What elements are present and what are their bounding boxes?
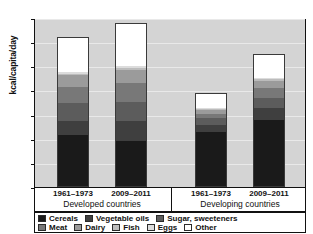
legend-item[interactable]: Fish <box>112 223 139 232</box>
bar[interactable] <box>253 54 285 187</box>
legend-swatch-icon <box>74 224 82 231</box>
bar-segment[interactable] <box>58 75 88 87</box>
bar-segment[interactable] <box>254 120 284 186</box>
x-tick-label: 2009–2011 <box>111 189 151 198</box>
bar-segment[interactable] <box>196 94 226 108</box>
bar-segment[interactable] <box>116 102 146 121</box>
plot-area: 0500100015002000250030003500 <box>34 19 306 188</box>
bar-segment[interactable] <box>58 121 88 135</box>
x-tick-label: 1961–1973 <box>191 189 231 198</box>
legend-item-label: Meat <box>49 223 67 232</box>
legend-item-label: Vegetable oils <box>96 214 149 223</box>
legend-item-label: Cereals <box>49 214 78 223</box>
y-tick-mark <box>31 140 35 141</box>
bar-segment[interactable] <box>116 24 146 66</box>
legend-item-label: Sugar, sweeteners <box>167 214 237 223</box>
legend-item[interactable]: Cereals <box>38 214 78 223</box>
legend-swatch-icon <box>85 215 93 222</box>
bar-segment[interactable] <box>116 121 146 141</box>
legend-swatch-icon <box>112 224 120 231</box>
y-tick-mark <box>31 19 35 20</box>
bar-segment[interactable] <box>196 118 226 125</box>
legend-item[interactable]: Eggs <box>147 223 178 232</box>
y-tick-mark <box>31 116 35 117</box>
bar-segment[interactable] <box>58 38 88 72</box>
bar-segment[interactable] <box>116 141 146 186</box>
y-tick-mark <box>31 43 35 44</box>
legend-item[interactable]: Other <box>184 223 216 232</box>
bar-segment[interactable] <box>254 108 284 120</box>
legend-item-label: Dairy <box>85 223 105 232</box>
bar-segment[interactable] <box>254 88 284 98</box>
legend-row-1: CerealsVegetable oilsSugar, sweeteners <box>38 214 302 223</box>
legend-swatch-icon <box>156 215 164 222</box>
y-tick-mark <box>31 91 35 92</box>
bar-segment[interactable] <box>58 87 88 102</box>
legend-item[interactable]: Dairy <box>74 223 105 232</box>
bar-segment[interactable] <box>254 81 284 88</box>
legend-row-2: MeatDairyFishEggsOther <box>38 223 302 232</box>
legend-swatch-icon <box>184 224 192 231</box>
legend-swatch-icon <box>38 215 46 222</box>
bar-segment[interactable] <box>254 98 284 108</box>
group-separator <box>171 188 172 211</box>
legend-swatch-icon <box>147 224 155 231</box>
bar-segment[interactable] <box>196 132 226 186</box>
bar-segment[interactable] <box>116 70 146 83</box>
bar-segment[interactable] <box>116 83 146 101</box>
stacked-bar-chart-figure: kcal/capita/day 050010001500200025003000… <box>0 0 313 234</box>
y-tick-mark <box>31 67 35 68</box>
bar[interactable] <box>57 37 89 187</box>
bar[interactable] <box>195 93 227 187</box>
y-axis-title: kcal/capita/day <box>8 5 18 125</box>
legend-item[interactable]: Meat <box>38 223 67 232</box>
bar-segment[interactable] <box>254 55 284 77</box>
x-tick-label: 1961–1973 <box>53 189 93 198</box>
y-tick-mark <box>31 164 35 165</box>
legend-item-label: Other <box>195 223 216 232</box>
bar-segment[interactable] <box>58 135 88 185</box>
gridline <box>35 19 305 20</box>
x-tick-label: 2009–2011 <box>249 189 289 198</box>
chart-legend: CerealsVegetable oilsSugar, sweeteners M… <box>34 212 306 233</box>
legend-swatch-icon <box>38 224 46 231</box>
legend-item-label: Eggs <box>158 223 178 232</box>
x-axis-label-band: 1961–19732009–20111961–19732009–2011Deve… <box>34 188 306 212</box>
group-label: Developing countries <box>200 199 279 209</box>
legend-item-label: Fish <box>123 223 139 232</box>
bar-segment[interactable] <box>58 103 88 122</box>
legend-item[interactable]: Sugar, sweeteners <box>156 214 237 223</box>
legend-item[interactable]: Vegetable oils <box>85 214 149 223</box>
bar[interactable] <box>115 23 147 187</box>
group-label: Developed countries <box>63 199 141 209</box>
